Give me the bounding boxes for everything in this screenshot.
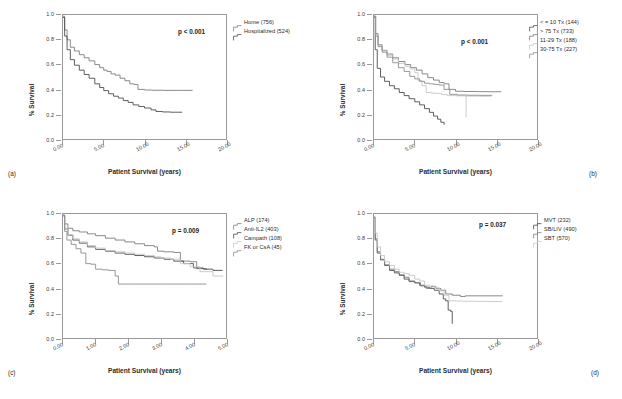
x-tick-label: 3.00 [151,341,163,351]
y-tick-mark [56,213,61,214]
y-tick-mark [56,14,61,15]
panel-tag-c: (c) [8,369,15,376]
survival-curve [374,216,502,301]
survival-curve [374,17,491,96]
x-tick-label: 5.00 [93,142,105,152]
panel-b: 0.00.20.40.60.81.00.005.0010.0015.0020.0… [311,0,622,199]
legend-b: < = 10 Tx (144)> 75 Tx (733)11-29 Tx (18… [529,17,579,53]
y-tick-mark [367,339,372,340]
legend-step-icon [529,18,538,25]
x-tick-label: 20.00 [217,141,232,153]
legend-item[interactable]: Anti-IL2 (403) [233,224,282,233]
y-tick-mark [367,140,372,141]
y-tick-mark [367,213,372,214]
p-value-c: p = 0.009 [172,227,199,234]
x-axis-title-c: Patient Survival (years) [62,367,227,374]
panel-a: 0.00.20.40.60.81.00.005.0010.0015.0020.0… [0,0,311,199]
x-tick-label: 20.00 [528,141,543,153]
legend-label: ALP (174) [244,217,270,223]
legend-item[interactable]: < = 10 Tx (144) [529,17,579,26]
legend-label: MVT (232) [544,217,571,223]
legend-a: Home (756)Hospitalized (524) [233,17,290,35]
y-tick-mark [367,314,372,315]
y-tick-mark [367,263,372,264]
y-tick-label: 1.0 [309,210,365,216]
x-tick-label: 0.00 [52,341,64,351]
legend-label: FK or CsA (45) [244,244,282,250]
x-tick-label: 15.00 [487,340,502,352]
y-tick-mark [56,64,61,65]
legend-item[interactable]: SB/LIV (490) [533,224,577,233]
y-tick-mark [56,90,61,91]
legend-item[interactable]: Hospitalized (524) [233,26,290,35]
x-tick-label: 10.00 [446,340,461,352]
legend-item[interactable]: MVT (232) [533,215,577,224]
y-tick-mark [367,289,372,290]
legend-step-icon [529,45,538,52]
legend-item[interactable]: ALP (174) [233,215,282,224]
legend-step-icon [533,216,542,223]
y-tick-mark [367,64,372,65]
figure-sheet: 0.00.20.40.60.81.00.005.0010.0015.0020.0… [0,0,622,399]
y-tick-label: 0.2 [309,311,365,317]
y-axis-title-a: % Survival [28,55,35,145]
p-value-d: p = 0.037 [479,221,506,228]
survival-curves-c [63,214,226,338]
legend-step-icon [233,27,242,34]
x-tick-label: 4.00 [184,341,196,351]
y-axis-title-c: % Survival [28,254,35,344]
legend-item[interactable]: Campath (108) [233,233,282,242]
survival-curve [374,16,501,92]
y-tick-label: 0.8 [0,235,54,241]
legend-step-icon [233,234,242,241]
x-tick-label: 10.00 [446,141,461,153]
x-axis-title-a: Patient Survival (years) [62,168,227,175]
legend-label: 30-75 Tx (227) [540,46,577,52]
legend-label: Anti-IL2 (403) [244,226,279,232]
y-tick-label: 0.8 [309,36,365,42]
legend-step-icon [529,27,538,34]
legend-item[interactable]: 11-29 Tx (188) [529,35,579,44]
y-tick-label: 1.0 [0,210,54,216]
x-tick-label: 5.00 [404,142,416,152]
legend-item[interactable]: 30-75 Tx (227) [529,44,579,53]
panel-d: 0.00.20.40.60.81.00.005.0010.0015.0020.0… [311,199,622,398]
y-tick-mark [56,140,61,141]
x-tick-label: 0.00 [363,341,375,351]
legend-step-icon [233,216,242,223]
x-tick-label: 5.00 [404,341,416,351]
y-tick-label: 0.8 [0,36,54,42]
x-axis-title-d: Patient Survival (years) [373,367,538,374]
x-axis-title-b: Patient Survival (years) [373,168,538,175]
x-tick-label: 5.00 [217,341,229,351]
plot-area-b [373,14,538,140]
y-tick-mark [56,314,61,315]
plot-area-c [62,213,227,339]
legend-step-icon [533,225,542,232]
x-tick-label: 15.00 [487,141,502,153]
survival-curve [374,218,452,324]
y-tick-label: 1.0 [309,11,365,17]
legend-item[interactable]: Home (756) [233,17,290,26]
x-tick-label: 1.00 [85,341,97,351]
y-tick-label: 0.4 [309,286,365,292]
y-tick-mark [367,238,372,239]
y-tick-mark [56,39,61,40]
survival-curve [374,217,503,296]
legend-item[interactable]: > 75 Tx (733) [529,26,579,35]
legend-item[interactable]: FK or CsA (45) [233,242,282,251]
survival-curve [374,16,492,95]
y-tick-mark [367,90,372,91]
y-tick-mark [56,289,61,290]
panel-tag-b: (b) [589,170,597,177]
legend-step-icon [233,225,242,232]
y-tick-label: 0.6 [309,61,365,67]
legend-item[interactable]: SBT (570) [533,233,577,242]
x-tick-label: 0.00 [363,142,375,152]
y-tick-mark [56,238,61,239]
y-axis-title-b: % Survival [339,55,346,145]
y-tick-mark [367,14,372,15]
x-tick-label: 20.00 [528,340,543,352]
survival-curve [63,17,182,112]
survival-curve [63,215,206,270]
